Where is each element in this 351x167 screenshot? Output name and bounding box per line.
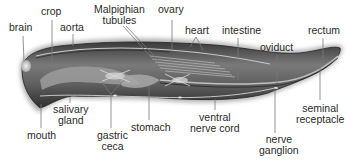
label-salivary-gland: salivarygland <box>53 104 89 126</box>
label-aorta: aorta <box>60 22 84 33</box>
label-oviduct: oviduct <box>260 42 293 53</box>
label-intestine: intestine <box>222 25 261 36</box>
label-seminal-receptacle: seminalreceptacle <box>296 103 344 125</box>
label-ovary: ovary <box>158 4 184 15</box>
label-nerve-ganglion: nerveganglion <box>259 134 299 156</box>
label-malpighian-tubules: Malpighiantubules <box>94 4 145 26</box>
insect-anatomy-diagram: brain crop aorta Malpighiantubules ovary… <box>0 0 351 167</box>
brain-organ <box>21 60 31 72</box>
label-ventral-nerve-cord: ventralnerve cord <box>190 112 240 134</box>
label-crop: crop <box>41 6 61 17</box>
label-stomach: stomach <box>131 122 171 133</box>
label-mouth: mouth <box>27 130 56 141</box>
label-heart: heart <box>185 25 209 36</box>
label-rectum: rectum <box>308 25 340 36</box>
label-brain: brain <box>9 22 32 33</box>
label-gastric-ceca: gastricceca <box>97 130 128 152</box>
